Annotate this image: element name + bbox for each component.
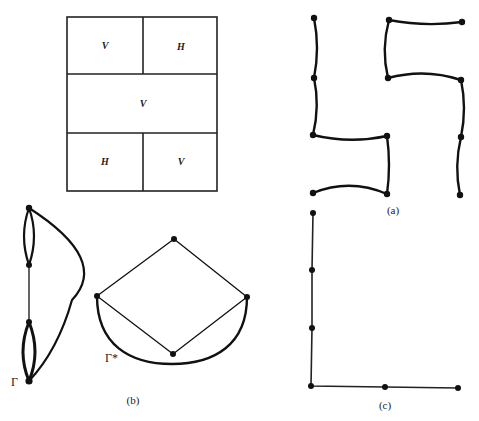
edge — [313, 78, 317, 135]
edge — [29, 208, 34, 265]
panel-c-graph — [311, 213, 458, 388]
vertex — [26, 205, 32, 211]
panel-c-vertices — [308, 210, 461, 391]
edge — [29, 208, 84, 381]
gamma-label: Γ — [11, 375, 18, 389]
gamma-graph — [23, 208, 84, 381]
panel-c-caption: (c) — [379, 399, 392, 412]
edge — [313, 186, 387, 194]
gamma-star-label: Γ* — [105, 351, 118, 365]
diagram-canvas: V H V H V (a) — [0, 0, 479, 421]
vertex — [309, 325, 315, 331]
cell-label-top-left: V — [102, 40, 110, 51]
edge — [314, 18, 317, 78]
panel-a-caption: (a) — [387, 204, 400, 217]
vertex — [309, 267, 315, 273]
edge — [29, 322, 35, 381]
vertex — [458, 134, 464, 140]
edge — [385, 20, 389, 78]
vertex — [386, 17, 392, 23]
edge — [457, 137, 461, 195]
vertex — [457, 192, 463, 198]
edge — [387, 136, 389, 194]
edge — [24, 208, 29, 265]
vertex — [308, 383, 314, 389]
vertex — [25, 377, 32, 384]
edge — [174, 239, 247, 297]
vertex — [170, 351, 176, 357]
edge — [97, 296, 173, 354]
vertex — [311, 15, 317, 21]
vertex — [459, 19, 465, 25]
vertex — [244, 294, 250, 300]
vertex — [310, 132, 316, 138]
vertex — [455, 385, 461, 391]
edge — [97, 239, 174, 296]
edge — [313, 135, 387, 140]
vertex — [384, 133, 390, 139]
edge — [389, 20, 462, 24]
vertex — [384, 191, 390, 197]
edge — [311, 213, 458, 388]
panel-a-graph — [313, 18, 464, 195]
edge — [173, 297, 247, 354]
edge — [461, 80, 464, 137]
panel-a-vertices — [310, 15, 465, 198]
vertex — [385, 75, 391, 81]
vertex — [310, 210, 316, 216]
vertex — [310, 190, 316, 196]
vertex — [311, 75, 317, 81]
cell-label-bottom-right: V — [178, 156, 186, 167]
gamma-star-vertices — [94, 236, 250, 357]
vertex — [94, 293, 100, 299]
vertex — [26, 319, 32, 325]
cell-label-bottom-left: H — [100, 156, 110, 167]
vertex — [171, 236, 177, 242]
cell-label-top-right: H — [176, 41, 186, 52]
edge — [388, 73, 461, 80]
vertex — [26, 262, 32, 268]
gamma-star-graph — [97, 239, 247, 364]
edge — [23, 322, 29, 381]
panel-b-caption: (b) — [127, 394, 140, 407]
vertex — [382, 384, 388, 390]
vertex — [458, 77, 464, 83]
cell-label-middle: V — [140, 98, 148, 109]
